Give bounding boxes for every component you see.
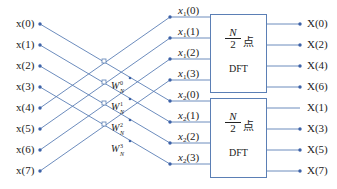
butterfly-lines [0,0,337,189]
twiddle-factor-3: W3N [111,144,119,154]
input-label: x(1) [16,39,34,50]
twiddle-factor-0: W0N [111,81,119,91]
output-label: X(2) [307,39,328,50]
dft-label: DFT [211,63,266,74]
output-label: X(1) [307,102,328,113]
output-label: X(4) [307,60,328,71]
mid-label-x2-0: x2(0) [178,89,199,104]
output-label: X(5) [307,144,328,155]
mid-label-x1-1: x1(1) [178,26,199,41]
point-suffix: 点 [243,117,254,133]
output-label: X(0) [307,18,328,29]
mid-label-x1-3: x1(3) [178,68,199,83]
output-label: X(3) [307,123,328,134]
twiddle-factor-2: W2N [111,123,119,133]
input-label: x(2) [16,60,34,71]
input-label: x(5) [16,123,34,134]
fraction-n-over-2: N2 [225,27,241,50]
mid-label-x1-2: x1(2) [178,47,199,62]
input-label: x(3) [16,81,34,92]
input-label: x(4) [16,102,34,113]
mid-label-x1-0: x1(0) [178,5,199,20]
fraction-n-over-2: N2 [225,111,241,134]
output-label: X(7) [307,165,328,176]
input-label: x(6) [16,144,34,155]
output-label: X(6) [307,81,328,92]
mid-label-x2-1: x2(1) [178,110,199,125]
input-label: x(7) [16,165,34,176]
fft-butterfly-diagram: x(0) x(1) x(2) x(3) x(4) x(5) x(6) x(7) … [0,0,337,189]
dft-block-bottom: N2 点 DFT [210,98,267,178]
twiddle-factor-1: W1N [111,102,119,112]
point-suffix: 点 [243,33,254,49]
dft-block-top: N2 点 DFT [210,14,267,93]
mid-label-x2-2: x2(2) [178,131,199,146]
dft-label: DFT [211,147,266,158]
input-label: x(0) [16,18,34,29]
mid-label-x2-3: x2(3) [178,152,199,167]
